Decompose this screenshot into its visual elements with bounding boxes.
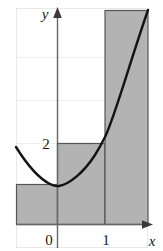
graph-svg: 2 0 1 y x	[0, 0, 163, 251]
riemann-rectangles	[17, 11, 149, 225]
origin-label: 0	[45, 232, 53, 248]
x-tick-label-1: 1	[102, 232, 110, 248]
x-axis-label: x	[148, 233, 156, 249]
y-axis-label: y	[40, 6, 49, 22]
figure-container: 2 0 1 y x	[0, 0, 163, 251]
y-tick-label-2: 2	[42, 136, 50, 152]
left-rectangle	[17, 185, 58, 225]
